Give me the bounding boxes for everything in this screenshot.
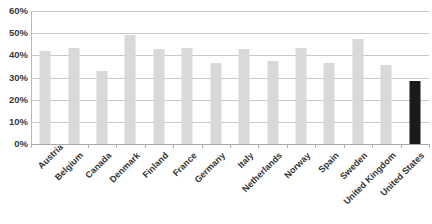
bar-slot xyxy=(88,11,116,144)
bar-germany xyxy=(210,63,221,144)
bar-austria xyxy=(40,51,51,144)
x-tick xyxy=(401,144,402,148)
x-axis-category-labels: AustriaBelgiumCanadaDenmarkFinlandFrance… xyxy=(31,148,429,224)
bar-slot xyxy=(401,11,429,144)
bar-chart: 0%10%20%30%40%50%60% AustriaBelgiumCanad… xyxy=(0,0,432,224)
bars-layer xyxy=(31,11,429,144)
bar-canada xyxy=(97,71,108,144)
bar-netherlands xyxy=(267,61,278,144)
bar-sweden xyxy=(352,39,363,144)
bar-spain xyxy=(324,63,335,144)
x-tick xyxy=(59,144,60,148)
bar-slot xyxy=(145,11,173,144)
bar-slot xyxy=(344,11,372,144)
bar-slot xyxy=(315,11,343,144)
y-tick-label-60: 60% xyxy=(0,6,28,16)
y-tick-label-30: 30% xyxy=(0,73,28,83)
y-tick-label-20: 20% xyxy=(0,95,28,105)
bar-slot xyxy=(372,11,400,144)
x-tick xyxy=(230,144,231,148)
x-tick xyxy=(372,144,373,148)
bar-united-states xyxy=(409,81,420,144)
x-tick xyxy=(258,144,259,148)
x-tick xyxy=(344,144,345,148)
bar-belgium xyxy=(68,48,79,144)
bar-slot xyxy=(230,11,258,144)
x-tick xyxy=(88,144,89,148)
y-tick-label-40: 40% xyxy=(0,51,28,61)
x-tick xyxy=(173,144,174,148)
x-tick xyxy=(287,144,288,148)
bar-france xyxy=(182,48,193,144)
x-tick xyxy=(31,144,32,148)
x-tick xyxy=(315,144,316,148)
bar-slot xyxy=(116,11,144,144)
x-label-austria: Austria xyxy=(37,151,57,171)
x-tick xyxy=(116,144,117,148)
bar-slot xyxy=(287,11,315,144)
y-tick-label-0: 0% xyxy=(0,139,28,149)
x-tick xyxy=(145,144,146,148)
y-tick-label-50: 50% xyxy=(0,28,28,38)
bar-norway xyxy=(296,48,307,144)
x-tick xyxy=(202,144,203,148)
x-label-italy: Italy xyxy=(95,151,256,224)
y-tick-label-10: 10% xyxy=(0,117,28,127)
bar-italy xyxy=(239,49,250,144)
bar-slot xyxy=(202,11,230,144)
bar-denmark xyxy=(125,35,136,144)
plot-area xyxy=(31,11,429,144)
bar-slot xyxy=(258,11,286,144)
x-tick xyxy=(429,144,430,148)
bar-slot xyxy=(31,11,59,144)
bar-finland xyxy=(153,49,164,144)
bar-united-kingdom xyxy=(381,65,392,144)
bar-slot xyxy=(59,11,87,144)
bar-slot xyxy=(173,11,201,144)
